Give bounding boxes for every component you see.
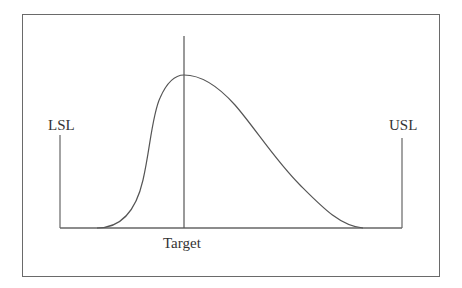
- usl-label: USL: [389, 118, 417, 133]
- lsl-label: LSL: [48, 118, 75, 133]
- distribution-curve: [97, 75, 363, 228]
- capability-diagram: LSL USL Target: [0, 0, 462, 288]
- diagram-canvas: [0, 0, 462, 288]
- target-label: Target: [163, 236, 201, 251]
